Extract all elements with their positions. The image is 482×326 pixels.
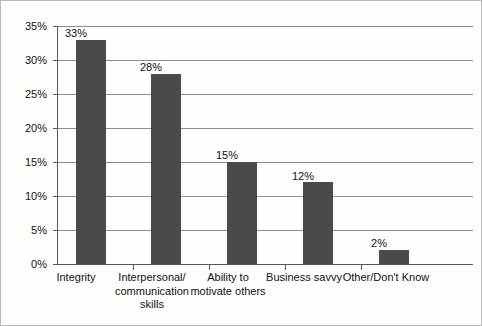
y-tick-mark-15 (53, 162, 58, 163)
category-label-line: Ability to (190, 271, 266, 285)
y-tick-mark-30 (53, 60, 58, 61)
x-tick-mark-3 (285, 265, 286, 270)
y-tick-label-35: 35% (25, 21, 47, 32)
bar-value-business-savvy: 12% (273, 171, 333, 182)
bar-value-ability-to-motivate-others: 15% (197, 150, 257, 161)
category-label-line: Integrity (43, 271, 109, 285)
y-tick-mark-25 (53, 94, 58, 95)
bar-ability-to-motivate-others (227, 162, 257, 264)
gridline-25 (57, 94, 473, 95)
gridline-30 (57, 60, 473, 61)
category-label-line: Other/Don't Know (338, 271, 434, 285)
bar-value-interpersonal-communication-skills: 28% (121, 62, 181, 73)
category-label-line: Interpersonal/ (114, 271, 190, 285)
y-tick-mark-20 (53, 128, 58, 129)
bar-interpersonal-communication-skills (151, 74, 181, 264)
bar-integrity (76, 40, 106, 264)
category-label-other-dont-know: Other/Don't Know (338, 271, 434, 285)
y-tick-mark-5 (53, 230, 58, 231)
category-label-business-savvy: Business savvy (264, 271, 344, 285)
y-tick-label-25: 25% (25, 89, 47, 100)
x-tick-mark-1 (133, 265, 134, 270)
y-tick-mark-35 (53, 26, 58, 27)
bar-other-dont-know (379, 250, 409, 264)
x-tick-mark-4 (361, 265, 362, 270)
y-tick-label-30: 30% (25, 55, 47, 66)
category-label-line: motivate others (190, 285, 266, 299)
plot-area (57, 26, 473, 264)
category-label-ability-to-motivate-others: Ability to motivate others (190, 271, 266, 298)
bar-value-integrity: 33% (46, 28, 106, 39)
category-label-line: Business savvy (264, 271, 344, 285)
y-tick-label-20: 20% (25, 123, 47, 134)
y-tick-label-10: 10% (25, 191, 47, 202)
category-label-line: communication (114, 285, 190, 299)
category-label-line: skills (114, 298, 190, 312)
gridline-5 (57, 230, 473, 231)
y-tick-mark-0 (53, 264, 58, 265)
y-tick-label-15: 15% (25, 157, 47, 168)
gridline-10 (57, 196, 473, 197)
category-label-interpersonal-communication-skills: Interpersonal/ communication skills (114, 271, 190, 312)
gridline-15 (57, 162, 473, 163)
x-tick-mark-2 (209, 265, 210, 270)
bar-chart-figure: 35% 30% 25% 20% 15% 10% 5% 0% 33% 28% 15… (0, 0, 482, 326)
category-label-integrity: Integrity (43, 271, 109, 285)
gridline-20 (57, 128, 473, 129)
y-tick-mark-10 (53, 196, 58, 197)
gridline-35 (57, 26, 473, 27)
bar-value-other-dont-know: 2% (349, 238, 409, 249)
y-tick-label-0: 0% (31, 259, 47, 270)
y-tick-label-5: 5% (31, 225, 47, 236)
bar-business-savvy (303, 182, 333, 264)
x-axis-line (57, 264, 473, 265)
